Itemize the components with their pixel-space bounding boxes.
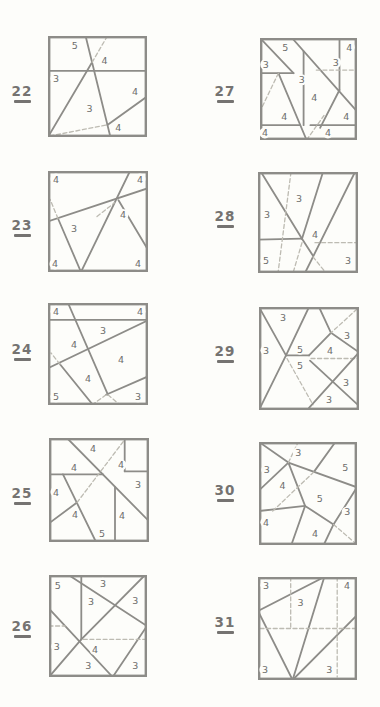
puzzle-svg-22: 543344 [48,36,147,137]
digit-label: 3 [333,57,339,68]
division-line [258,239,302,240]
puzzle-diagram-27: 5433344444 [260,38,357,140]
division-line [107,97,147,125]
digit-label: 3 [326,664,332,675]
digit-label: 5 [317,493,323,504]
division-line-dashed [272,472,314,512]
division-line [259,442,288,463]
digit-label: 3 [298,597,304,608]
division-line [259,506,305,511]
puzzle-number-31: 31 [209,616,241,634]
digit-label: 3 [344,506,350,517]
digit-label: 4 [327,345,333,356]
digit-label: 4 [137,306,143,317]
puzzle-diagram-24: 44344453 [48,303,148,405]
puzzle-number-text: 22 [12,83,33,99]
puzzle-number-underline [14,234,31,237]
digit-label: 3 [100,325,106,336]
digit-label: 4 [263,517,269,528]
digit-label: 5 [263,255,269,266]
puzzle-diagram-25: 44434445 [49,438,149,542]
digit-label: 4 [71,462,77,473]
digit-label: 3 [100,578,106,589]
digit-label: 3 [88,596,94,607]
digit-label: 4 [53,174,59,185]
digit-label: 4 [281,111,287,122]
puzzle-number-24: 24 [6,343,38,361]
puzzle-number-underline [217,499,234,502]
digit-label: 5 [72,40,78,51]
digit-label: 3 [263,59,269,70]
digit-label: 5 [99,528,105,539]
puzzle-diagram-26: 53333433 [49,575,147,677]
division-line [314,442,336,472]
digit-label: 3 [345,255,351,266]
digit-label: 5 [282,42,288,53]
puzzle-diagram-30: 33545344 [259,442,357,545]
digit-label: 5 [53,391,59,402]
digit-label: 3 [280,312,286,323]
puzzle-number-text: 23 [12,217,33,233]
digit-label: 5 [297,360,303,371]
division-line [319,307,331,333]
puzzle-svg-26: 53333433 [49,575,147,677]
division-line-dashed [50,199,58,218]
puzzle-number-23: 23 [6,219,38,237]
digit-label: 4 [279,480,285,491]
puzzle-number-27: 27 [209,85,241,103]
square-border [50,439,148,541]
division-line [106,376,148,394]
digit-label: 4 [343,111,349,122]
puzzle-number-underline [14,100,31,103]
digit-label: 4 [132,86,138,97]
division-line-dashed [334,524,356,543]
puzzle-number-underline [14,502,31,505]
puzzle-diagram-22: 543344 [48,36,147,137]
puzzle-number-29: 29 [209,345,241,363]
division-line [305,506,333,525]
division-line [302,239,313,256]
puzzle-svg-24: 44344453 [48,303,148,405]
digit-label: 4 [325,127,331,138]
digit-label: 4 [344,580,350,591]
division-line [48,320,148,368]
puzzle-number-underline [14,358,31,361]
division-line [288,463,305,506]
digit-label: 5 [297,344,303,355]
division-line [119,200,149,250]
puzzle-diagram-29: 33553433 [259,307,359,410]
division-line-dashed [278,172,291,273]
digit-label: 3 [264,464,270,475]
digit-label: 5 [342,462,348,473]
puzzle-number-text: 31 [215,614,236,630]
digit-label: 3 [263,580,269,591]
digit-label: 3 [71,223,77,234]
digit-label: 3 [263,345,269,356]
puzzle-diagram-28: 33453 [258,172,358,273]
puzzle-svg-30: 33545344 [259,442,357,545]
digit-label: 4 [53,306,59,317]
digit-label: 3 [87,103,93,114]
digit-label: 3 [85,660,91,671]
digit-label: 3 [295,447,301,458]
division-line [81,171,130,272]
puzzle-number-22: 22 [6,85,38,103]
digit-label: 4 [53,487,59,498]
puzzle-number-text: 25 [12,485,33,501]
division-line-dashed [50,125,107,136]
division-line [320,90,339,128]
puzzle-svg-28: 33453 [258,172,358,273]
digit-label: 4 [119,510,125,521]
digit-label: 4 [115,122,121,133]
division-line-dashed [51,353,60,364]
digit-label: 4 [137,174,143,185]
digit-label: 4 [71,339,77,350]
digit-label: 4 [101,55,107,66]
digit-label: 3 [299,74,305,85]
division-line-dashed [313,257,326,273]
digit-label: 3 [296,193,302,204]
puzzle-svg-29: 33553433 [259,307,359,410]
puzzle-number-28: 28 [209,210,241,228]
digit-label: 3 [343,377,349,388]
puzzle-number-text: 28 [215,208,236,224]
